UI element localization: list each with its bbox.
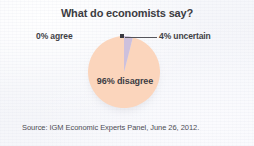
pie-chart-graphic xyxy=(88,36,160,108)
pie-chart-figure: What do economists say? 0% agree 4% unce… xyxy=(0,0,254,146)
label-disagree: 96% disagree xyxy=(0,76,252,86)
label-uncertain: 4% uncertain xyxy=(159,31,211,41)
label-agree: 0% agree xyxy=(36,31,73,41)
uncertain-leader-dot xyxy=(120,34,124,38)
pie-svg xyxy=(88,36,160,108)
uncertain-leader-line xyxy=(125,37,157,38)
chart-title: What do economists say? xyxy=(0,7,254,19)
source-note: Source: IGM Economic Experts Panel, June… xyxy=(22,123,199,132)
